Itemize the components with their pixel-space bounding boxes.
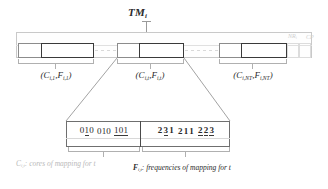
nr-annotation-base: NR [288, 33, 296, 39]
caption-frequencies-text: : frequencies of mapping for t [142, 163, 231, 172]
digit: 3 [164, 125, 169, 136]
caption-cores-symbol-sub: i,t [21, 163, 25, 168]
digit-chunk: 010 [97, 126, 111, 136]
nr-annotation: NRi [288, 33, 297, 39]
digit: 0 [89, 125, 94, 135]
digit-chunk: 231 [157, 125, 174, 136]
digit-chunk: 010 [80, 125, 94, 136]
digit: 1 [123, 125, 128, 136]
digit: 2 [198, 125, 203, 136]
cp-annotation: CP [306, 34, 314, 40]
cp-annotation-base: CP [306, 34, 314, 40]
brace-tick-cores [103, 152, 104, 157]
digit-chunk: 211 [177, 126, 194, 136]
digit-chunk: 223 [198, 125, 215, 136]
digit: 1 [189, 126, 194, 136]
cores-digit-string[interactable]: 010010101 [68, 124, 140, 137]
digit: 1 [184, 126, 189, 136]
frequencies-digit-string[interactable]: 231211223 [142, 124, 230, 137]
digit: 1 [169, 125, 174, 135]
page-title-base: TM [128, 6, 145, 18]
digit: 2 [204, 125, 209, 136]
digit: 2 [158, 125, 163, 135]
brace-tick-frequencies [185, 152, 186, 157]
zoom-connector [0, 55, 328, 121]
caption-cores: Ci,t: cores of mapping for t [16, 159, 96, 168]
nr-annotation-subscript: i [296, 36, 297, 40]
digit: 2 [178, 126, 183, 136]
page-title-subscript: i [145, 12, 147, 19]
digit-chunk: 101 [114, 125, 128, 136]
caption-frequencies-symbol-sub: i,t [138, 167, 142, 172]
caption-cores-text: : cores of mapping for t [25, 159, 96, 168]
tape-gap-dash-left [95, 50, 116, 51]
digit: 3 [209, 125, 214, 136]
brace-cores [68, 147, 140, 152]
detail-box-divider [140, 121, 141, 147]
tape-gap-dash-right [185, 50, 218, 51]
caption-frequencies: Fi,t: frequencies of mapping for t [133, 163, 231, 172]
brace-frequencies [142, 147, 230, 152]
detail-box-inner-rule [66, 138, 230, 139]
digit: 0 [106, 126, 111, 136]
page-title: TMi [128, 6, 147, 18]
